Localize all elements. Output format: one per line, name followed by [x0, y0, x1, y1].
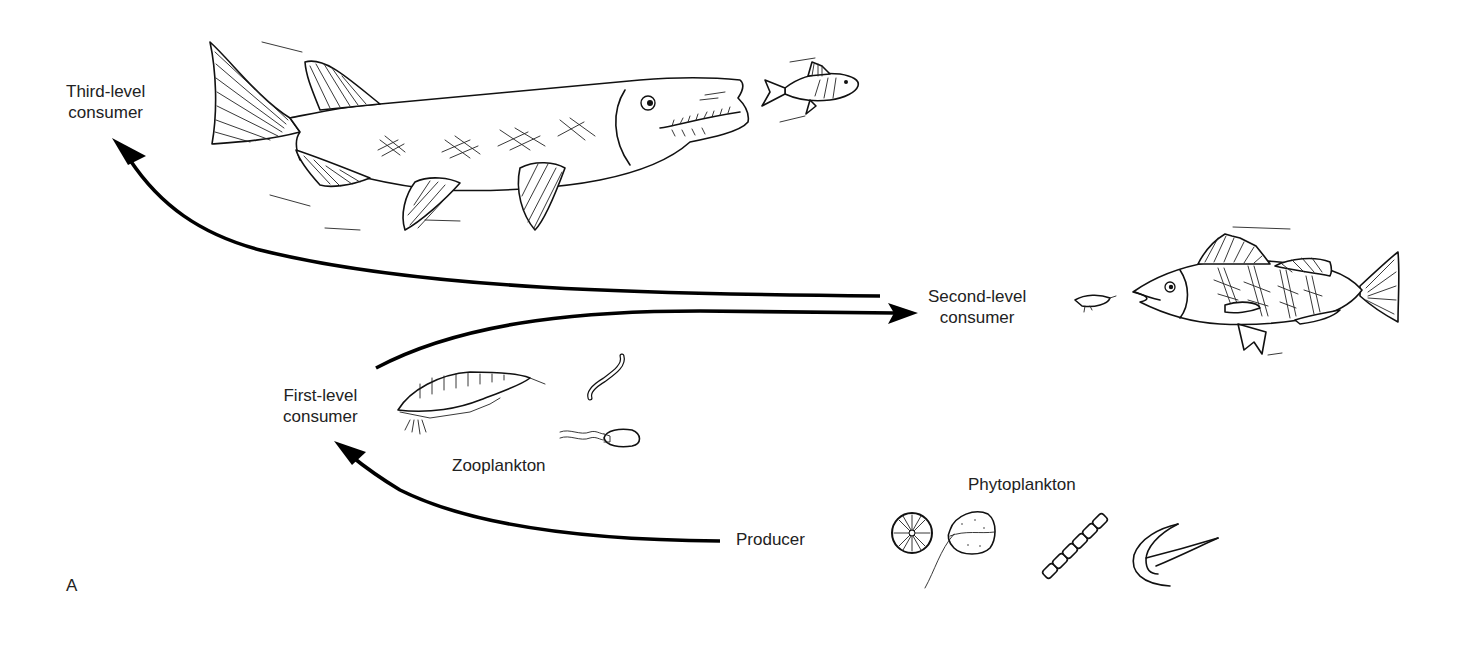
ceratium-illustration	[1133, 524, 1218, 586]
arrow-first-to-second	[376, 303, 918, 368]
diagram-artwork	[0, 0, 1464, 646]
label-third-level-consumer: Third-level consumer	[66, 81, 145, 123]
label-zooplankton: Zooplankton	[452, 455, 546, 476]
label-first-level-consumer: First-level consumer	[283, 385, 358, 427]
first-level-line2: consumer	[283, 406, 358, 427]
perch-illustration	[1133, 227, 1399, 355]
third-level-line2: consumer	[66, 102, 145, 123]
diatom-disc-illustration	[892, 513, 932, 553]
third-level-line1: Third-level	[66, 81, 145, 102]
dinoflagellate-illustration	[925, 512, 995, 588]
second-level-line1: Second-level	[928, 286, 1026, 307]
worm-illustration	[590, 356, 623, 398]
panel-label: A	[66, 575, 77, 596]
pike-illustration	[210, 42, 748, 230]
prey-fish-illustration	[762, 58, 858, 122]
label-second-level-consumer: Second-level consumer	[928, 286, 1026, 328]
diatom-chain-illustration	[1042, 513, 1109, 580]
rotifer-illustration	[560, 429, 640, 446]
copepod-illustration	[398, 372, 545, 434]
label-producer: Producer	[736, 529, 805, 550]
label-phytoplankton: Phytoplankton	[968, 474, 1076, 495]
shrimp-illustration	[1075, 295, 1116, 312]
food-chain-diagram: Third-level consumer Second-level consum…	[0, 0, 1464, 646]
first-level-line1: First-level	[283, 385, 358, 406]
second-level-line2: consumer	[928, 307, 1026, 328]
